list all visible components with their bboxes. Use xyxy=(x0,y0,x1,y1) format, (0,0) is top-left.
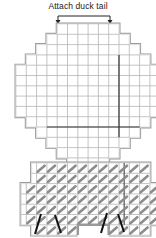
top-piece-outline-inner xyxy=(16,24,156,179)
bracket-legs xyxy=(58,16,110,22)
plastic-canvas-pattern xyxy=(0,0,156,238)
